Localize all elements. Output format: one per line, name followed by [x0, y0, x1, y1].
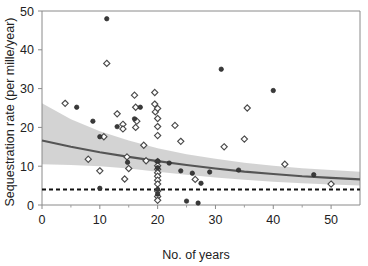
data-point-open — [152, 89, 158, 95]
data-point-open — [172, 122, 178, 128]
y-tick-labels: 01020304050 — [20, 5, 34, 213]
data-point-filled — [74, 105, 78, 109]
y-tick-label-20: 20 — [20, 121, 34, 135]
data-point-filled — [312, 173, 316, 177]
data-point-filled — [196, 201, 200, 205]
data-point-filled — [132, 117, 136, 121]
x-tick-labels: 01020304050 — [39, 213, 339, 227]
y-tick-label-10: 10 — [20, 160, 34, 174]
scatter-plot-svg: 01020304050 01020304050 No. of years Seq… — [0, 0, 368, 266]
x-tick-label-50: 50 — [324, 213, 338, 227]
data-point-open — [114, 111, 120, 117]
data-point-open — [178, 138, 184, 144]
data-point-open — [282, 161, 288, 167]
data-point-open — [241, 136, 247, 142]
y-tick-label-30: 30 — [20, 82, 34, 96]
data-point-filled — [98, 186, 102, 190]
data-point-filled — [91, 119, 95, 123]
x-tick-label-20: 20 — [151, 213, 165, 227]
data-point-open — [192, 176, 198, 182]
x-axis-title: No. of years — [162, 248, 229, 262]
data-point-open — [122, 176, 128, 182]
x-tick-label-0: 0 — [39, 213, 46, 227]
y-axis-ticks — [38, 11, 42, 205]
data-point-filled — [155, 166, 159, 170]
data-point-filled — [115, 124, 119, 128]
data-point-filled — [138, 105, 142, 109]
data-point-open — [155, 124, 161, 130]
data-point-filled — [155, 187, 159, 191]
data-point-open — [120, 126, 126, 132]
data-point-filled — [190, 171, 194, 175]
data-point-filled — [184, 199, 188, 203]
y-tick-label-40: 40 — [20, 43, 34, 57]
x-axis-ticks — [42, 205, 331, 209]
data-point-filled — [219, 67, 223, 71]
data-point-open — [244, 105, 250, 111]
data-point-filled — [105, 17, 109, 21]
data-point-filled — [125, 160, 129, 164]
data-point-filled — [179, 169, 183, 173]
y-tick-label-0: 0 — [27, 199, 34, 213]
data-point-open — [221, 144, 227, 150]
data-point-filled — [199, 181, 203, 185]
chart-figure: 01020304050 01020304050 No. of years Seq… — [0, 0, 368, 266]
y-tick-label-50: 50 — [20, 5, 34, 19]
data-point-open — [131, 92, 137, 98]
data-point-open — [97, 168, 103, 174]
x-tick-label-30: 30 — [209, 213, 223, 227]
data-point-filled — [155, 159, 159, 163]
data-point-filled — [236, 168, 240, 172]
data-point-filled — [271, 88, 275, 92]
x-tick-label-10: 10 — [93, 213, 107, 227]
data-point-filled — [167, 161, 171, 165]
data-point-filled — [155, 192, 159, 196]
data-point-open — [155, 115, 161, 121]
data-point-open — [155, 132, 161, 138]
data-point-open — [133, 124, 139, 130]
data-point-filled — [207, 170, 211, 174]
data-point-open — [62, 100, 68, 106]
y-axis-title: Sequestration rate (per mille/year) — [3, 18, 17, 207]
x-tick-label-40: 40 — [266, 213, 280, 227]
data-point-filled — [98, 135, 102, 139]
data-point-open — [104, 60, 110, 66]
